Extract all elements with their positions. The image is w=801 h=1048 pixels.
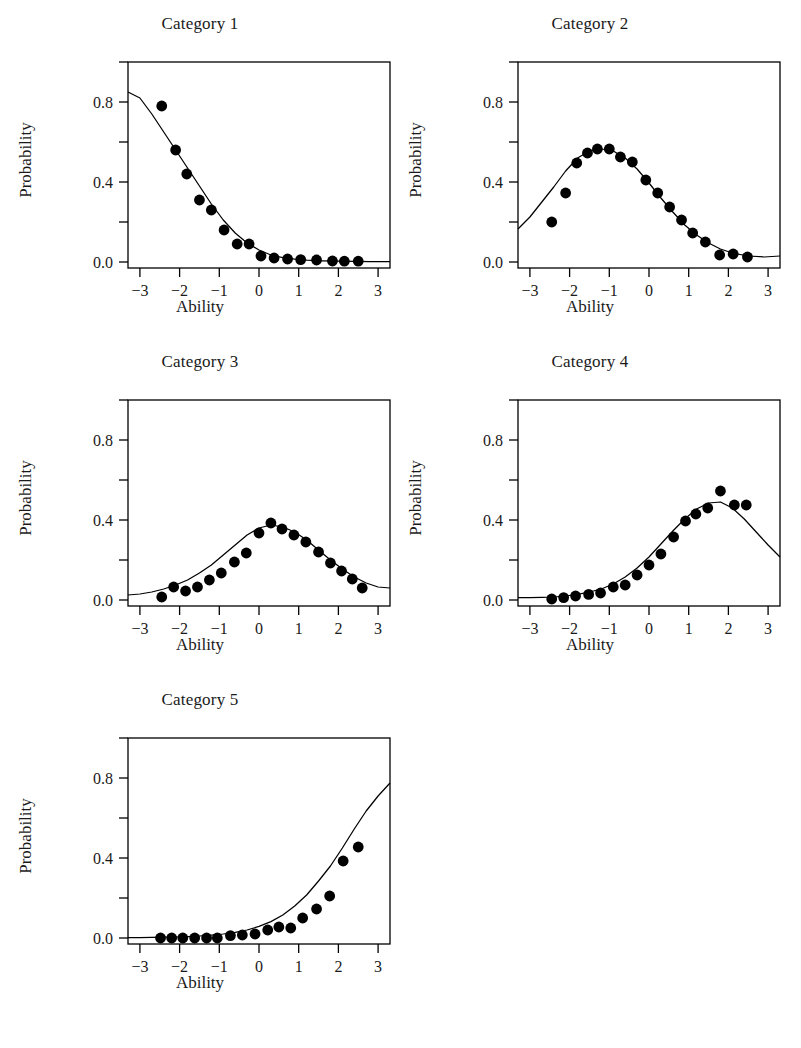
data-point [357, 583, 368, 594]
data-point [353, 842, 364, 853]
data-point [680, 516, 691, 527]
icc-figure: Category 1AbilityProbability0.00.40.8−3−… [0, 0, 801, 1048]
data-point [620, 580, 631, 591]
data-point [181, 169, 192, 180]
data-point [285, 923, 296, 934]
y-tick-label: 0.4 [93, 850, 113, 867]
data-point [546, 217, 557, 228]
data-point [225, 930, 236, 941]
data-point [204, 575, 215, 586]
x-tick-label: 2 [724, 282, 732, 299]
data-point [324, 891, 335, 902]
x-tick-label: 2 [334, 282, 342, 299]
data-point [177, 933, 188, 944]
data-point [338, 856, 349, 867]
x-tick-label: −2 [171, 958, 188, 975]
x-tick-label: −2 [171, 282, 188, 299]
chart-panel-1: Category 1AbilityProbability0.00.40.8−3−… [0, 0, 400, 340]
plot-frame [518, 62, 780, 268]
plot-area: 0.00.40.8−3−2−10123 [0, 676, 400, 1016]
y-tick-label: 0.0 [483, 254, 503, 271]
x-tick-label: 3 [764, 620, 772, 637]
data-point [715, 486, 726, 497]
data-point [241, 548, 252, 559]
data-point [570, 591, 581, 602]
data-point [676, 215, 687, 226]
data-point [180, 586, 191, 597]
x-tick-label: 0 [255, 620, 263, 637]
data-point [250, 929, 261, 940]
data-point [297, 913, 308, 924]
fitted-curve [128, 783, 390, 938]
data-point [194, 195, 205, 206]
x-tick-label: −2 [561, 282, 578, 299]
fitted-curve [128, 92, 390, 262]
x-tick-label: 0 [645, 620, 653, 637]
fitted-curve [518, 502, 780, 598]
x-tick-label: 3 [374, 620, 382, 637]
chart-panel-3: Category 3AbilityProbability0.00.40.8−3−… [0, 338, 400, 678]
data-point [166, 933, 177, 944]
data-point [656, 549, 667, 560]
y-tick-label: 0.4 [483, 512, 503, 529]
plot-area: 0.00.40.8−3−2−10123 [0, 0, 400, 340]
x-tick-label: −1 [601, 282, 618, 299]
y-tick-label: 0.0 [483, 592, 503, 609]
data-point [311, 904, 322, 915]
data-point [604, 144, 615, 155]
data-point [273, 922, 284, 933]
data-point [582, 148, 593, 159]
x-tick-label: −3 [131, 958, 148, 975]
data-point [219, 225, 230, 236]
y-tick-label: 0.0 [93, 592, 113, 609]
data-point [668, 532, 679, 543]
x-tick-label: 0 [255, 282, 263, 299]
data-point-group [156, 101, 363, 267]
data-point [216, 568, 227, 579]
x-tick-label: 0 [645, 282, 653, 299]
y-tick-label: 0.4 [93, 174, 113, 191]
x-tick-label: 1 [295, 282, 303, 299]
x-tick-label: −3 [521, 282, 538, 299]
x-tick-label: 3 [764, 282, 772, 299]
x-tick-label: 2 [334, 958, 342, 975]
x-tick-label: −1 [211, 958, 228, 975]
x-tick-label: 0 [255, 958, 263, 975]
x-tick-label: 1 [685, 282, 693, 299]
x-tick-label: −1 [211, 620, 228, 637]
data-point [546, 594, 557, 605]
x-tick-label: −3 [131, 620, 148, 637]
data-point [560, 188, 571, 199]
data-point [266, 518, 277, 529]
data-point [277, 524, 288, 535]
plot-area: 0.00.40.8−3−2−10123 [390, 0, 790, 340]
x-tick-label: 1 [295, 958, 303, 975]
x-tick-label: −1 [211, 282, 228, 299]
x-tick-label: 3 [374, 282, 382, 299]
data-point [201, 933, 212, 944]
data-point [262, 925, 273, 936]
fitted-curve [518, 149, 780, 257]
y-tick-label: 0.0 [93, 254, 113, 271]
x-tick-label: −2 [171, 620, 188, 637]
y-tick-label: 0.8 [483, 432, 503, 449]
x-tick-label: −1 [601, 620, 618, 637]
data-point [729, 500, 740, 511]
data-point-group [546, 144, 753, 263]
y-tick-label: 0.4 [93, 512, 113, 529]
x-tick-label: 1 [295, 620, 303, 637]
data-point [192, 582, 203, 593]
data-point-group [546, 486, 751, 605]
x-tick-label: 2 [334, 620, 342, 637]
x-tick-label: −2 [561, 620, 578, 637]
y-tick-label: 0.8 [93, 770, 113, 787]
plot-frame [518, 400, 780, 606]
data-point-group [155, 842, 363, 944]
x-tick-label: −3 [131, 282, 148, 299]
data-point [189, 933, 200, 944]
chart-panel-2: Category 2AbilityProbability0.00.40.8−3−… [390, 0, 790, 340]
y-tick-label: 0.8 [93, 94, 113, 111]
data-point [742, 252, 753, 263]
data-point [232, 239, 243, 250]
y-tick-label: 0.8 [93, 432, 113, 449]
